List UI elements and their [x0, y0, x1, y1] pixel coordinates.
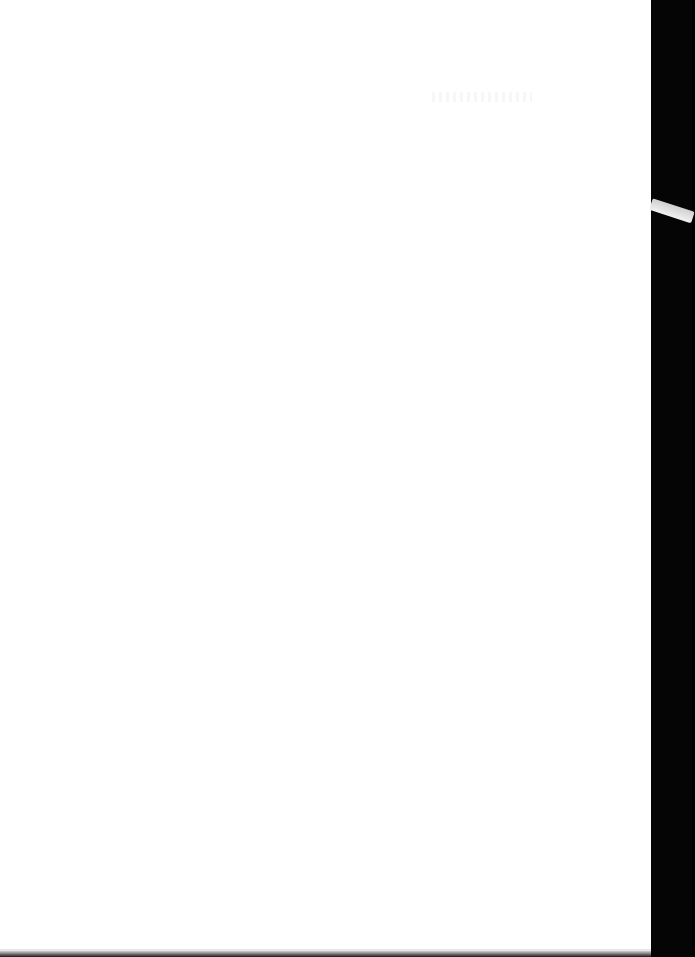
scanner-background — [651, 0, 692, 957]
blank-scanned-page — [0, 0, 651, 951]
illegible-bleed-through — [432, 92, 532, 102]
page-bottom-edge — [0, 951, 651, 957]
